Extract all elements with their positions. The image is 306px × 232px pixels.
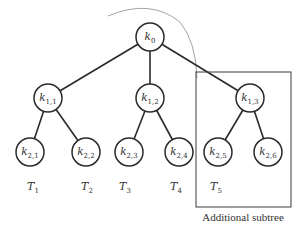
tree-nodes: k0k1,1k1,2k1,3k2,1k2,2k2,3k2,4k2,5k2,6	[16, 23, 282, 166]
subtree-label-t5: T5	[210, 180, 222, 195]
node-k13: k1,3	[236, 84, 264, 112]
edge-k0-k13	[150, 37, 250, 98]
node-k11: k1,1	[34, 84, 62, 112]
subtree-label-t1: T1	[27, 180, 39, 195]
subtree-label-t4: T4	[170, 180, 182, 195]
node-k24: k2,4	[165, 138, 193, 166]
node-k12: k1,2	[136, 84, 164, 112]
additional-subtree-caption: Additional subtree	[202, 211, 284, 223]
node-k26: k2,6	[254, 138, 282, 166]
edge-k0-k11	[48, 37, 150, 98]
node-k21: k2,1	[16, 138, 44, 166]
node-k23: k2,3	[115, 138, 143, 166]
subtree-label-t2: T2	[81, 180, 93, 195]
subtree-labels: T1T2T3T4T5	[27, 180, 222, 195]
node-k0: k0	[136, 23, 164, 51]
tree-diagram: k0k1,1k1,2k1,3k2,1k2,2k2,3k2,4k2,5k2,6 T…	[0, 0, 306, 232]
subtree-label-t3: T3	[119, 180, 131, 195]
node-k25: k2,5	[204, 138, 232, 166]
node-k22: k2,2	[72, 138, 100, 166]
